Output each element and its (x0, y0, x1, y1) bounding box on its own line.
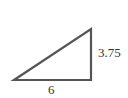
base-label: 6 (48, 83, 55, 96)
vertical-side-label: 3.75 (98, 46, 121, 59)
